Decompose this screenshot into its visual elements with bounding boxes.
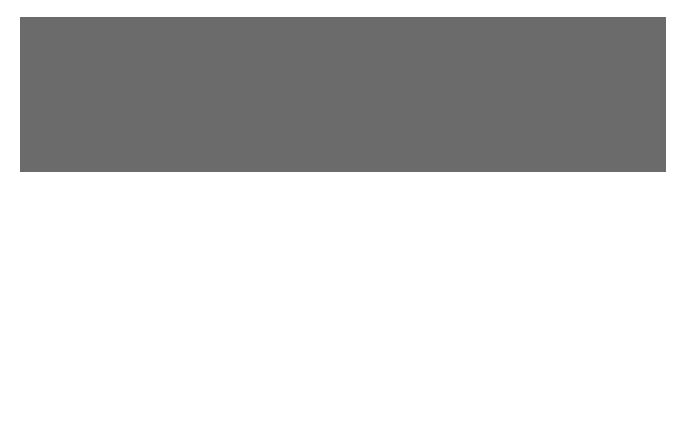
cetus-star-map [0, 0, 700, 446]
